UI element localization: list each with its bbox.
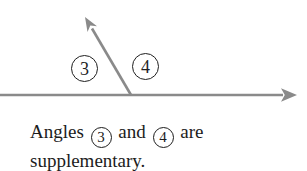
caption: Angles 3 and 4 are supplementary.	[30, 119, 290, 171]
caption-circled-4: 4	[153, 127, 174, 148]
angle-diagram: 3 4 Angles 3 and 4 are supplementary.	[0, 0, 307, 171]
caption-line-1: Angles 3 and 4 are	[30, 119, 290, 148]
ray-arrowhead-icon	[85, 17, 97, 32]
caption-word-are: are	[180, 121, 203, 142]
caption-word-angles: Angles	[30, 121, 84, 142]
ray-line	[92, 29, 131, 96]
angle-label-3: 3	[71, 55, 98, 82]
caption-word-and: and	[118, 121, 145, 142]
right-arrowhead-icon	[281, 88, 297, 102]
caption-line-2: supplementary.	[30, 148, 290, 171]
angle-label-4: 4	[132, 53, 159, 80]
caption-circled-3: 3	[91, 127, 112, 148]
angle-label-4-text: 4	[141, 58, 150, 76]
angle-label-3-text: 3	[80, 60, 89, 78]
